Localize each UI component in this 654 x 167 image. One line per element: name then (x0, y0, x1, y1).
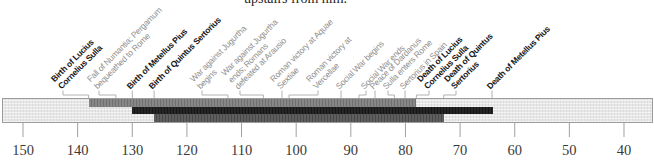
axis-tick-label: 110 (224, 142, 260, 159)
timeline-figure: upstairs from him. Birth of Lucius Corne… (0, 0, 654, 167)
lifespan-event-label: Death of Metellus Pius (485, 24, 552, 91)
axis-tick-label: 120 (169, 142, 205, 159)
axis-tick-label: 130 (114, 142, 150, 159)
axis-tick-label: 70 (442, 142, 478, 159)
axis-tick-label: 50 (551, 142, 587, 159)
axis-tick-label: 100 (278, 142, 314, 159)
timeline-band (2, 98, 653, 123)
axis-tick-label: 60 (497, 142, 533, 159)
sulla-lifespan-bar (89, 99, 417, 107)
axis-tick-label: 80 (387, 142, 423, 159)
metellus-pius-lifespan-bar (132, 107, 493, 115)
page-text-fragment: upstairs from him. (244, 0, 347, 7)
lifespan-bars-host (3, 99, 652, 122)
axis-tick-label: 150 (5, 142, 41, 159)
axis-tick-label: 40 (606, 142, 642, 159)
axis-tick-label: 140 (60, 142, 96, 159)
axis-tick-label: 90 (333, 142, 369, 159)
sertorius-lifespan-bar (154, 114, 444, 122)
